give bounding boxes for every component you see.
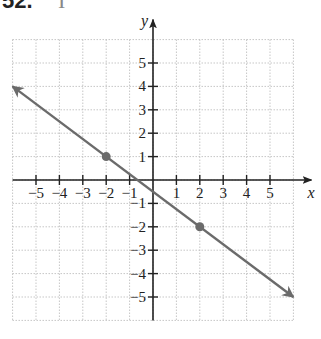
y-axis-label: y <box>139 12 149 30</box>
y-tick-label: −4 <box>130 266 146 282</box>
plotted-point <box>102 152 111 161</box>
plotted-point <box>195 222 204 231</box>
x-tick-label: 2 <box>196 185 204 201</box>
coordinate-graph: xy −5−4−3−2−112345−5−4−3−2−112345 <box>0 0 321 339</box>
x-tick-label: −2 <box>98 185 114 201</box>
x-tick-label: −4 <box>51 185 67 201</box>
y-tick-label: −2 <box>130 219 146 235</box>
y-tick-label: 3 <box>139 102 147 118</box>
x-tick-label: 1 <box>173 185 181 201</box>
y-tick-label: −5 <box>130 289 146 305</box>
y-tick-label: −1 <box>130 195 146 211</box>
x-tick-label: 4 <box>243 185 251 201</box>
y-tick-label: 4 <box>139 78 147 94</box>
y-tick-label: 5 <box>139 55 147 71</box>
x-tick-label: −3 <box>75 185 91 201</box>
y-tick-label: 1 <box>139 149 147 165</box>
x-axis-label: x <box>306 184 314 201</box>
y-tick-label: 2 <box>139 125 147 141</box>
y-tick-label: −3 <box>130 242 146 258</box>
x-tick-label: 3 <box>219 185 227 201</box>
x-tick-label: −5 <box>28 185 44 201</box>
x-tick-label: 5 <box>266 185 274 201</box>
